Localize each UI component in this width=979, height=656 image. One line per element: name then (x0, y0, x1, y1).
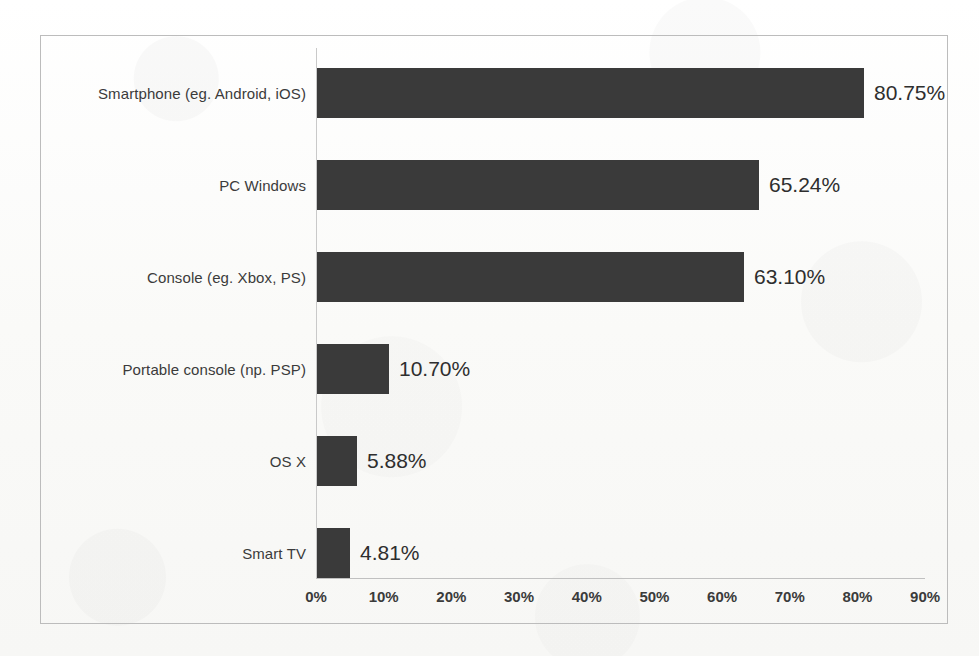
x-tick-label: 70% (760, 588, 820, 605)
category-label: Portable console (np. PSP) (0, 344, 306, 394)
category-label: Smart TV (0, 528, 306, 578)
bar-row: PC Windows65.24% (0, 160, 979, 210)
bar (317, 344, 389, 394)
category-label: PC Windows (0, 160, 306, 210)
category-label: Console (eg. Xbox, PS) (0, 252, 306, 302)
x-tick-label: 90% (895, 588, 955, 605)
bar-row: Console (eg. Xbox, PS)63.10% (0, 252, 979, 302)
bar (317, 528, 350, 578)
bar-value-label: 63.10% (754, 252, 825, 302)
y-axis-line (316, 48, 317, 578)
bar-value-label: 65.24% (769, 160, 840, 210)
category-label: Smartphone (eg. Android, iOS) (0, 68, 306, 118)
bar (317, 436, 357, 486)
bar-value-label: 5.88% (367, 436, 427, 486)
bar (317, 68, 864, 118)
bar-value-label: 10.70% (399, 344, 470, 394)
x-tick-label: 10% (354, 588, 414, 605)
x-tick-label: 50% (624, 588, 684, 605)
bar (317, 252, 744, 302)
x-tick-label: 60% (692, 588, 752, 605)
x-axis-line (316, 578, 925, 579)
bar-value-label: 4.81% (360, 528, 420, 578)
bar-row: Smart TV4.81% (0, 528, 979, 578)
category-label: OS X (0, 436, 306, 486)
bar-value-label: 80.75% (874, 68, 945, 118)
bar-chart: Smartphone (eg. Android, iOS)80.75%PC Wi… (0, 0, 979, 656)
x-tick-label: 0% (286, 588, 346, 605)
x-tick-label: 40% (557, 588, 617, 605)
x-tick-label: 80% (827, 588, 887, 605)
x-tick-label: 20% (421, 588, 481, 605)
x-tick-label: 30% (489, 588, 549, 605)
bar (317, 160, 759, 210)
bar-row: OS X5.88% (0, 436, 979, 486)
bar-row: Portable console (np. PSP)10.70% (0, 344, 979, 394)
bar-row: Smartphone (eg. Android, iOS)80.75% (0, 68, 979, 118)
